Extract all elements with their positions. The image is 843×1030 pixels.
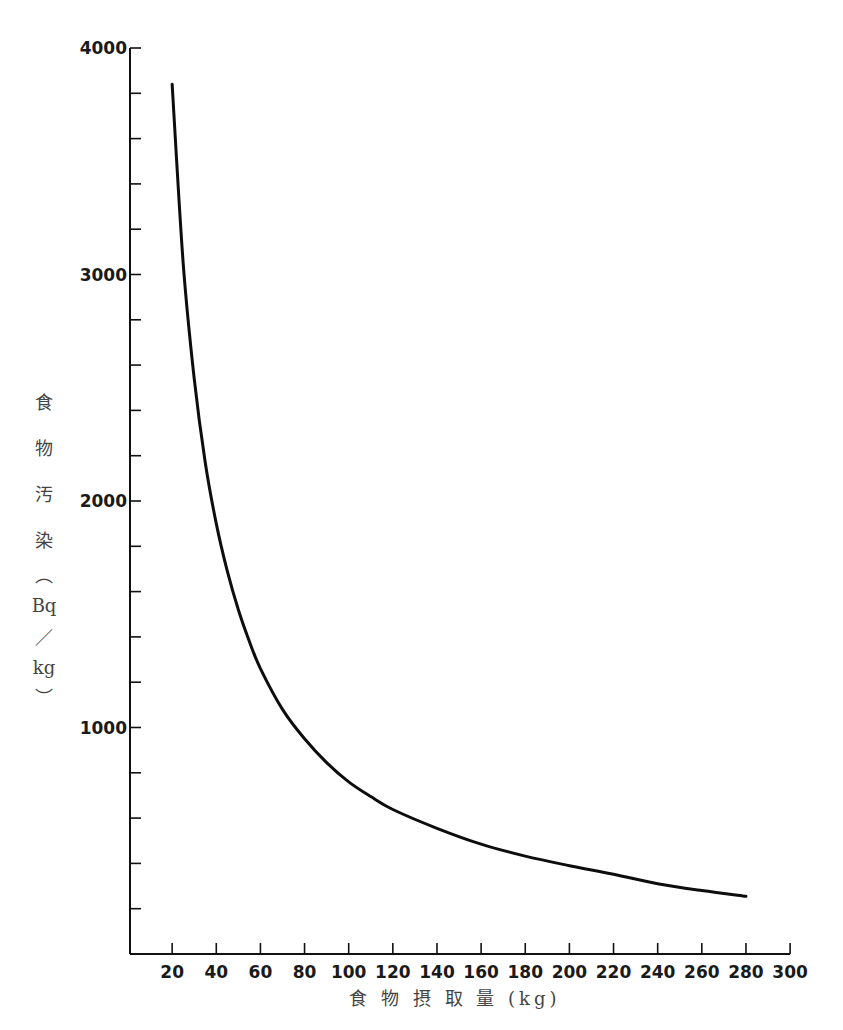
y-axis-title-char: ／ bbox=[35, 627, 53, 648]
y-tick-label: 1000 bbox=[80, 718, 127, 738]
x-tick-label: 180 bbox=[508, 962, 544, 982]
x-tick-label: 60 bbox=[249, 962, 273, 982]
x-tick-label: 140 bbox=[419, 962, 455, 982]
x-tick-label: 100 bbox=[331, 962, 367, 982]
y-axis-title-char: 食 bbox=[35, 392, 53, 413]
series-layer bbox=[172, 84, 746, 896]
x-axis-title: 食 物 摂 取 量 (kg) bbox=[349, 988, 560, 1009]
y-tick-label: 4000 bbox=[80, 38, 127, 58]
x-tick-label: 20 bbox=[160, 962, 184, 982]
x-tick-label: 280 bbox=[728, 962, 764, 982]
y-axis-title-char: ︶ bbox=[35, 687, 53, 708]
y-tick-label: 2000 bbox=[80, 491, 127, 511]
y-axis-title: 食物汚染︵Bq／kg︶ bbox=[32, 392, 57, 708]
x-tick-label: 200 bbox=[552, 962, 588, 982]
x-tick-label: 220 bbox=[596, 962, 632, 982]
y-axis-title-char: kg bbox=[33, 657, 55, 678]
x-tick-label: 80 bbox=[293, 962, 317, 982]
y-axis-title-char: 染 bbox=[35, 530, 53, 551]
x-tick-label: 300 bbox=[772, 962, 808, 982]
series-line bbox=[172, 84, 746, 896]
y-axis-title-char: 汚 bbox=[35, 484, 53, 505]
x-tick-label: 120 bbox=[375, 962, 411, 982]
chart: 1000200030004000 20406080100120140160180… bbox=[0, 0, 843, 1030]
y-axis-title-char: ︵ bbox=[35, 565, 53, 586]
y-ticks: 1000200030004000 bbox=[80, 38, 141, 909]
x-ticks: 2040608010012014016018020022024026028030… bbox=[160, 943, 808, 982]
x-tick-label: 40 bbox=[204, 962, 228, 982]
x-tick-label: 160 bbox=[463, 962, 499, 982]
y-tick-label: 3000 bbox=[80, 265, 127, 285]
y-axis-title-char: 物 bbox=[35, 438, 53, 459]
axes bbox=[130, 48, 790, 954]
x-tick-label: 240 bbox=[640, 962, 676, 982]
y-axis-title-char: Bq bbox=[32, 595, 57, 616]
x-tick-label: 260 bbox=[684, 962, 720, 982]
